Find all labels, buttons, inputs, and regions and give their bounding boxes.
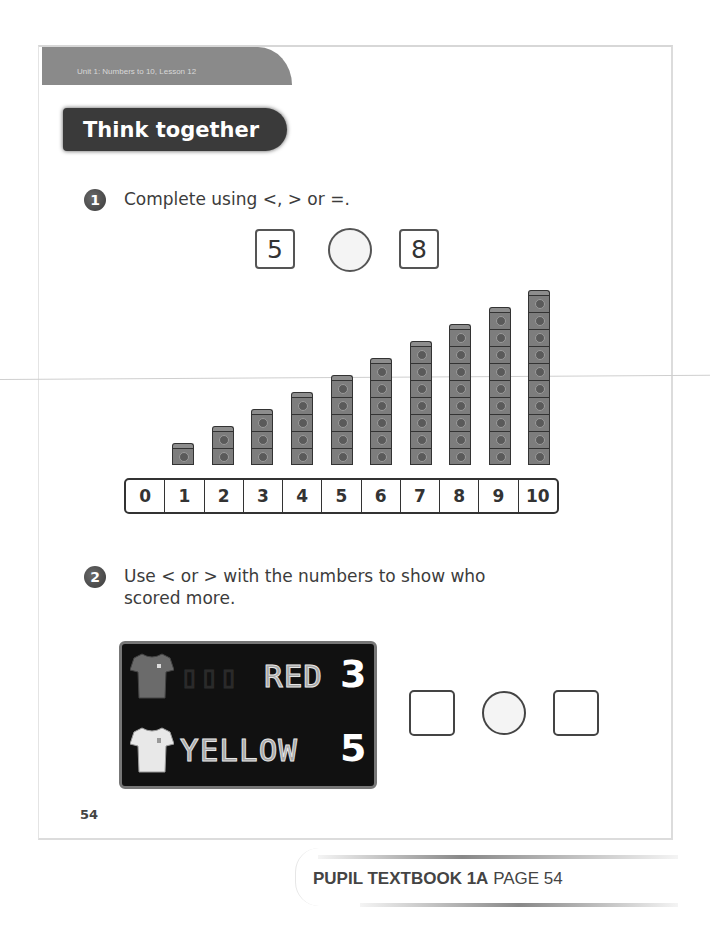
- page-number: 54: [80, 807, 98, 822]
- linking-cube: [528, 346, 550, 363]
- linking-cube: [370, 431, 392, 448]
- linking-cube: [370, 380, 392, 397]
- question-2-number-badge: 2: [84, 566, 106, 588]
- linking-cube: [291, 448, 313, 465]
- question-2-number: 2: [90, 569, 100, 585]
- answer-right-box[interactable]: [553, 690, 599, 736]
- linking-cube: [449, 448, 471, 465]
- linking-cube: [370, 363, 392, 380]
- cube-tower: [172, 443, 194, 465]
- cube-tower: [291, 392, 313, 465]
- linking-cube: [251, 431, 273, 448]
- linking-cube: [410, 414, 432, 431]
- question-2-prompt-line-1: Use < or > with the numbers to show who: [124, 565, 486, 587]
- left-number-box: 5: [255, 229, 295, 269]
- linking-cube: [449, 431, 471, 448]
- linking-cube: [489, 380, 511, 397]
- linking-cube: [449, 363, 471, 380]
- yellow-shirt-icon: [130, 726, 174, 774]
- linking-cube: [370, 397, 392, 414]
- team-yellow-score: 5: [340, 726, 366, 770]
- number-track-cell: 5: [322, 480, 361, 512]
- number-track: 012345678910: [124, 478, 559, 514]
- linking-cube: [410, 448, 432, 465]
- linking-cube: [449, 380, 471, 397]
- scoreboard: ▯▯▯ RED 3 YELLOW 5: [119, 641, 377, 789]
- team-yellow-name: YELLOW: [180, 732, 298, 768]
- question-2-prompt-line-2: scored more.: [124, 587, 235, 609]
- right-number-box: 8: [399, 229, 439, 269]
- linking-cube: [489, 329, 511, 346]
- linking-cube: [489, 414, 511, 431]
- footer-page-label: PAGE 54: [493, 869, 563, 888]
- footer-rule-bottom: [360, 903, 678, 907]
- footer-rule-top: [318, 855, 678, 859]
- linking-cube: [489, 346, 511, 363]
- linking-cube: [449, 346, 471, 363]
- linking-cube: [331, 380, 353, 397]
- linking-cube: [528, 312, 550, 329]
- cube-tower: [449, 324, 471, 465]
- question-1-number-badge: 1: [84, 189, 106, 211]
- linking-cube: [251, 448, 273, 465]
- scoreboard-unlit-dots: ▯▯▯: [180, 658, 239, 694]
- question-1-number: 1: [90, 192, 100, 208]
- number-track-cell: 1: [165, 480, 204, 512]
- linking-cube: [528, 329, 550, 346]
- unit-banner: Unit 1: Numbers to 10, Lesson 12: [42, 47, 292, 85]
- linking-cube: [528, 380, 550, 397]
- footer-label: PUPIL TEXTBOOK 1A PAGE 54: [313, 869, 563, 889]
- linking-cube: [489, 363, 511, 380]
- cube-tower: [212, 426, 234, 465]
- linking-cube: [172, 448, 194, 465]
- linking-cube: [370, 448, 392, 465]
- linking-cube: [489, 312, 511, 329]
- linking-cube: [331, 448, 353, 465]
- section-title: Think together: [83, 118, 259, 142]
- linking-cube: [528, 397, 550, 414]
- linking-cube: [528, 414, 550, 431]
- linking-cube: [528, 295, 550, 312]
- footer-book-label: PUPIL TEXTBOOK 1A: [313, 869, 488, 888]
- linking-cube: [251, 414, 273, 431]
- team-red-score: 3: [340, 652, 366, 696]
- linking-cube: [410, 397, 432, 414]
- answer-left-box[interactable]: [409, 690, 455, 736]
- cube-tower: [528, 290, 550, 465]
- number-track-cell: 7: [401, 480, 440, 512]
- linking-cube: [449, 414, 471, 431]
- number-track-cell: 2: [205, 480, 244, 512]
- number-track-cell: 3: [244, 480, 283, 512]
- linking-cube: [212, 431, 234, 448]
- linking-cube: [291, 414, 313, 431]
- answer-comparison-circle[interactable]: [482, 691, 526, 735]
- number-track-cell: 6: [362, 480, 401, 512]
- linking-cube: [410, 346, 432, 363]
- cube-tower: [370, 358, 392, 465]
- linking-cube: [410, 380, 432, 397]
- red-shirt-icon: [130, 652, 174, 700]
- question-1-prompt: Complete using <, > or =.: [124, 188, 350, 210]
- linking-cube: [291, 397, 313, 414]
- number-track-cell: 10: [519, 480, 557, 512]
- linking-cube: [291, 431, 313, 448]
- number-track-cell: 0: [126, 480, 165, 512]
- cube-tower: [331, 375, 353, 465]
- linking-cube: [410, 363, 432, 380]
- linking-cube: [331, 414, 353, 431]
- linking-cube: [212, 448, 234, 465]
- linking-cube: [528, 448, 550, 465]
- section-title-badge: Think together: [63, 108, 287, 151]
- number-track-cell: 8: [440, 480, 479, 512]
- linking-cube: [528, 363, 550, 380]
- team-red-name: RED: [264, 658, 323, 694]
- unit-banner-text: Unit 1: Numbers to 10, Lesson 12: [77, 67, 196, 76]
- comparison-answer-circle[interactable]: [328, 228, 372, 272]
- cube-tower: [489, 307, 511, 465]
- linking-cube: [489, 397, 511, 414]
- linking-cube: [449, 329, 471, 346]
- number-track-cell: 4: [283, 480, 322, 512]
- linking-cube: [528, 431, 550, 448]
- linking-cube: [370, 414, 392, 431]
- number-track-cell: 9: [479, 480, 518, 512]
